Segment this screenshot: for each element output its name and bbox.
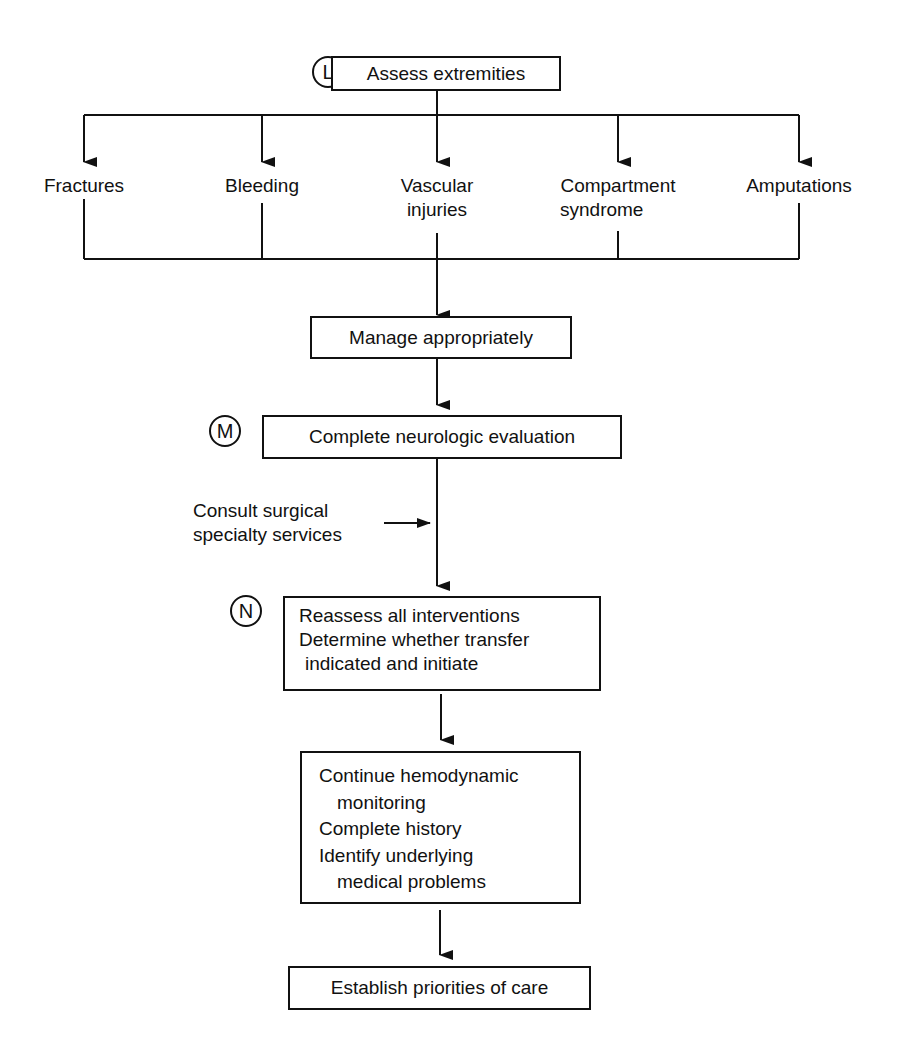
node-continue-line1: Continue hemodynamic (319, 763, 579, 790)
step-marker-n: N (230, 595, 262, 627)
note-consult-surgical-specialty: Consult surgical specialty services (193, 499, 342, 547)
node-manage-appropriately-label: Manage appropriately (349, 326, 533, 350)
branch-amputations: Amputations (734, 174, 864, 198)
note-consult-line2: specialty services (193, 523, 342, 547)
branch-vascular-line2: injuries (377, 198, 497, 222)
step-marker-m-text: M (217, 420, 234, 443)
branch-compartment-line2: syndrome (548, 198, 688, 222)
branch-fractures: Fractures (24, 174, 144, 198)
branch-vascular-line1: Vascular (377, 174, 497, 198)
node-reassess-interventions: Reassess all interventions Determine whe… (283, 596, 601, 691)
node-continue-line5: medical problems (319, 869, 579, 896)
node-complete-neurologic-evaluation-label: Complete neurologic evaluation (309, 425, 575, 449)
branch-compartment-line1: Compartment (548, 174, 688, 198)
branch-bleeding: Bleeding (202, 174, 322, 198)
branch-amputations-label: Amputations (746, 175, 852, 196)
node-complete-neurologic-evaluation: Complete neurologic evaluation (262, 415, 622, 459)
note-consult-line1: Consult surgical (193, 499, 342, 523)
node-continue-line3: Complete history (319, 816, 579, 843)
node-assess-extremities: Assess extremities (331, 56, 561, 91)
node-establish-priorities: Establish priorities of care (288, 966, 591, 1010)
node-continue-monitoring: Continue hemodynamic monitoring Complete… (300, 751, 581, 904)
branch-bleeding-label: Bleeding (225, 175, 299, 196)
node-reassess-line1: Reassess all interventions (299, 604, 599, 628)
node-continue-line2: monitoring (319, 790, 579, 817)
branch-compartment-syndrome: Compartment syndrome (548, 174, 688, 222)
node-continue-line4: Identify underlying (319, 843, 579, 870)
node-assess-extremities-label: Assess extremities (367, 62, 525, 86)
step-marker-m: M (209, 415, 241, 447)
node-reassess-line2: Determine whether transfer (299, 628, 599, 652)
step-marker-n-label: N (239, 600, 253, 623)
node-establish-priorities-label: Establish priorities of care (331, 976, 549, 1000)
branch-fractures-label: Fractures (44, 175, 124, 196)
node-manage-appropriately: Manage appropriately (310, 316, 572, 359)
node-reassess-line3: indicated and initiate (299, 652, 599, 676)
branch-vascular-injuries: Vascular injuries (377, 174, 497, 222)
